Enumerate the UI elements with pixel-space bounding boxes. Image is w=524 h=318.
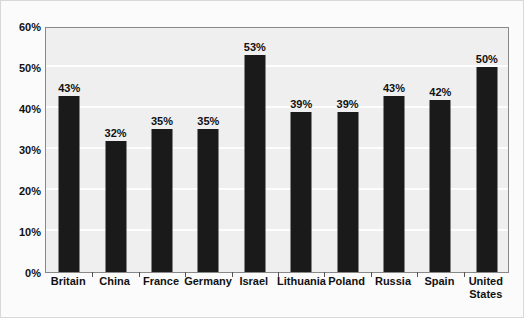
bar-value-label: 39%	[290, 98, 312, 110]
bar[interactable]	[476, 67, 497, 272]
bar-group[interactable]: 39%	[324, 28, 370, 272]
x-category-label: France	[138, 275, 184, 288]
bar-value-label: 43%	[383, 82, 405, 94]
x-category-label: United States	[463, 275, 509, 301]
y-tick-label: 10%	[1, 227, 41, 238]
y-tick-label: 20%	[1, 186, 41, 197]
bar[interactable]	[244, 55, 265, 272]
bar[interactable]	[59, 96, 80, 272]
plot-area: 43%32%35%35%53%39%39%43%42%50%	[45, 27, 509, 273]
x-category-label: China	[91, 275, 137, 288]
bar-value-label: 53%	[244, 41, 266, 53]
y-tick-label: 40%	[1, 104, 41, 115]
bar-value-label: 32%	[105, 127, 127, 139]
x-category-label: Germany	[184, 275, 230, 288]
bar-group[interactable]: 42%	[417, 28, 463, 272]
bar-value-label: 35%	[197, 115, 219, 127]
bar-group[interactable]: 50%	[464, 28, 510, 272]
bar[interactable]	[105, 141, 126, 272]
bar-value-label: 43%	[58, 82, 80, 94]
y-tick-label: 30%	[1, 145, 41, 156]
bar[interactable]	[430, 100, 451, 272]
bar[interactable]	[291, 112, 312, 272]
x-category-label: Lithuania	[277, 275, 323, 288]
bar-value-label: 50%	[476, 53, 498, 65]
bar-group[interactable]: 43%	[46, 28, 92, 272]
x-category-label: Poland	[323, 275, 369, 288]
x-category-label: Israel	[231, 275, 277, 288]
y-tick-label: 50%	[1, 63, 41, 74]
y-tick-label: 0%	[1, 268, 41, 279]
bar-group[interactable]: 43%	[371, 28, 417, 272]
bar-value-label: 39%	[337, 98, 359, 110]
bar[interactable]	[151, 129, 172, 273]
x-category-label: Spain	[416, 275, 462, 288]
bar-value-label: 35%	[151, 115, 173, 127]
x-axis: BritainChinaFranceGermanyIsraelLithuania…	[45, 275, 509, 315]
bar[interactable]	[198, 129, 219, 273]
bar[interactable]	[383, 96, 404, 272]
y-axis: 0%10%20%30%40%50%60%	[1, 27, 41, 273]
bar-group[interactable]: 32%	[92, 28, 138, 272]
bar-chart-figure: 0%10%20%30%40%50%60% 43%32%35%35%53%39%3…	[0, 0, 524, 318]
x-category-label: Russia	[370, 275, 416, 288]
bar-group[interactable]: 39%	[278, 28, 324, 272]
bar-group[interactable]: 53%	[232, 28, 278, 272]
bar[interactable]	[337, 112, 358, 272]
bar-group[interactable]: 35%	[185, 28, 231, 272]
x-category-label: Britain	[45, 275, 91, 288]
bar-value-label: 42%	[429, 86, 451, 98]
y-tick-label: 60%	[1, 22, 41, 33]
bar-group[interactable]: 35%	[139, 28, 185, 272]
